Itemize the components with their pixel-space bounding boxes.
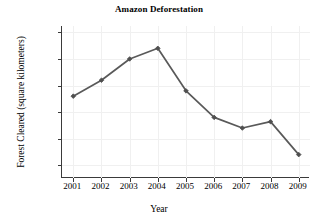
series-polyline [73,48,298,154]
data-point-marker [240,126,245,131]
x-axis-title: Year [0,204,318,214]
x-tick-label: 2009 [278,182,318,191]
y-axis-title: Forest Cleared (square kilometers) [16,12,26,192]
chart-title: Amazon Deforestation [0,4,318,14]
chart-container: Amazon Deforestation Forest Cleared (squ… [0,0,318,223]
plot-area [61,26,309,178]
data-series-line [62,26,310,178]
